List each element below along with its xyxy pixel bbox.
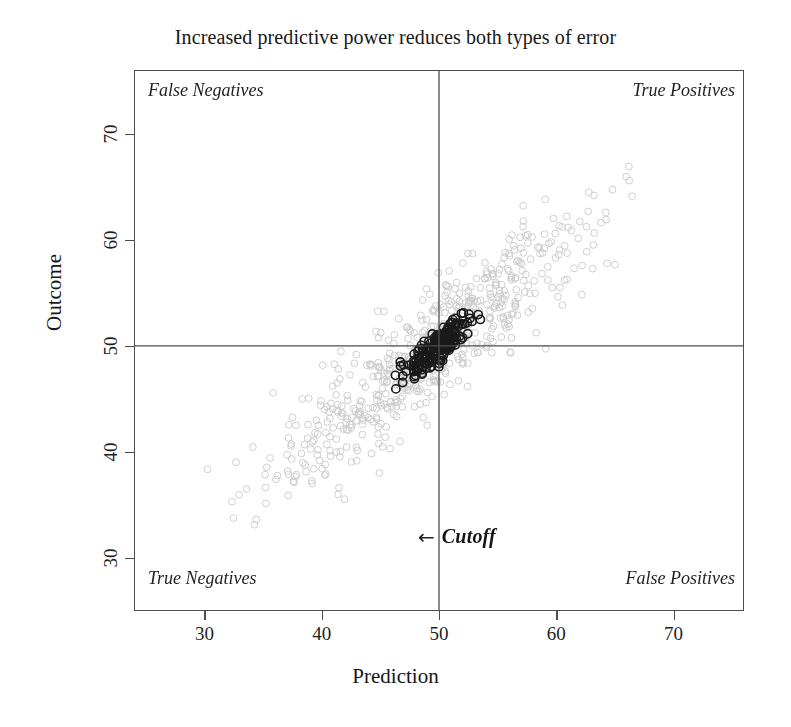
y-tick-mark (125, 134, 134, 135)
y-tick-label: 30 (100, 543, 122, 573)
x-axis-title: Prediction (0, 664, 791, 689)
x-tick-mark (556, 611, 557, 620)
quadrant-label-true-positives: True Positives (633, 80, 736, 101)
y-axis-title: Outcome (42, 233, 67, 353)
y-tick-label: 60 (100, 225, 122, 255)
x-tick-mark (674, 611, 675, 620)
x-tick-label: 30 (195, 623, 214, 645)
y-tick-mark (125, 240, 134, 241)
x-tick-mark (439, 611, 440, 620)
y-tick-label: 40 (100, 437, 122, 467)
page-title: Increased predictive power reduces both … (0, 26, 791, 49)
cutoff-label: Cutoff (442, 525, 496, 548)
cutoff-annotation: ← Cutoff (418, 525, 496, 548)
x-tick-label: 70 (664, 623, 683, 645)
y-tick-mark (125, 346, 134, 347)
y-tick-label: 50 (100, 331, 122, 361)
quadrant-label-false-negatives: False Negatives (148, 80, 263, 101)
y-tick-mark (125, 452, 134, 453)
left-arrow-icon: ← (418, 527, 435, 547)
quadrant-label-false-positives: False Positives (626, 568, 735, 589)
x-tick-mark (204, 611, 205, 620)
y-tick-mark (125, 558, 134, 559)
x-tick-label: 50 (430, 623, 449, 645)
x-tick-mark (322, 611, 323, 620)
scatter-plot-figure: Increased predictive power reduces both … (0, 0, 791, 727)
x-tick-label: 60 (547, 623, 566, 645)
x-tick-label: 40 (312, 623, 331, 645)
y-tick-label: 70 (100, 119, 122, 149)
quadrant-label-true-negatives: True Negatives (148, 568, 257, 589)
